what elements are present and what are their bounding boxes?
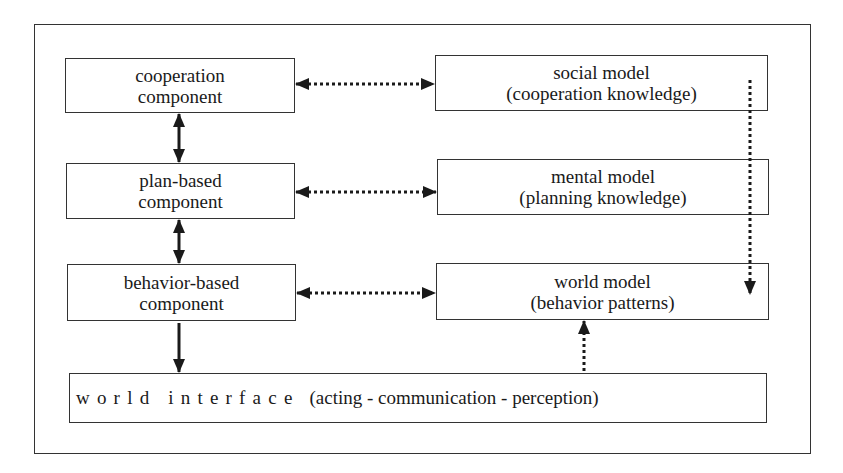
connector-arrows [0, 0, 843, 473]
